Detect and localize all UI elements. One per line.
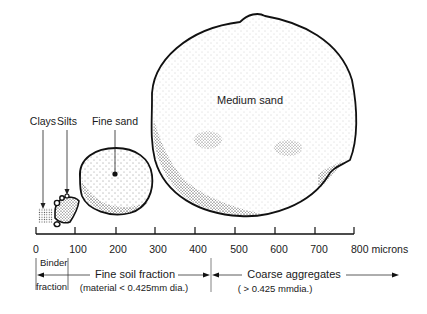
tick-label: 800 microns xyxy=(351,243,408,255)
tick-label: 600 xyxy=(270,243,288,255)
tick-label: 400 xyxy=(189,243,207,255)
medium-sand-particle: Medium sand xyxy=(152,14,357,216)
silt-particles xyxy=(54,194,79,227)
tick-label: 700 xyxy=(310,243,328,255)
tick-label: 0 xyxy=(33,243,39,255)
coarse-aggregates-sublabel: ( > 0.425 mmdia.) xyxy=(238,283,313,294)
clays-label: Clays xyxy=(30,115,56,127)
tick-label: 100 xyxy=(69,243,87,255)
fine-soil-fraction-label: Fine soil fraction xyxy=(95,268,175,280)
fine-soil-fraction-sublabel: (material < 0.425mm dia.) xyxy=(80,282,189,293)
axis-tick-labels: 0 100 200 300 400 500 600 700 800 micron… xyxy=(33,243,408,255)
tick-label: 200 xyxy=(109,243,127,255)
tick-label: 300 xyxy=(149,243,167,255)
binder-label-line1: Binder xyxy=(40,257,67,268)
fine-sand-label: Fine sand xyxy=(92,115,138,127)
soil-particle-size-diagram: Medium sand Clays Silts Fine sand xyxy=(0,0,427,314)
size-axis xyxy=(36,227,354,234)
clay-particles xyxy=(38,208,53,223)
silts-label: Silts xyxy=(57,115,77,127)
coarse-aggregates-label: Coarse aggregates xyxy=(247,268,341,280)
fine-sand-marker-dot xyxy=(112,171,117,176)
binder-label-line2: fraction xyxy=(36,281,67,292)
medium-sand-label: Medium sand xyxy=(217,94,283,106)
fine-sand-particle xyxy=(80,148,153,214)
tick-label: 500 xyxy=(230,243,248,255)
